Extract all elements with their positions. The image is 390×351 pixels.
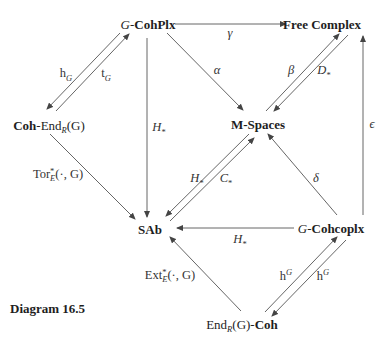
label-beta: β xyxy=(288,63,294,77)
node-g-cohplx: G-CohPlx xyxy=(121,17,176,32)
arrow-delta xyxy=(268,134,337,215)
arrow-alpha xyxy=(167,33,243,110)
label-delta: δ xyxy=(313,171,319,185)
label-alpha: α xyxy=(214,63,221,77)
label-c-star: C* xyxy=(220,171,233,185)
node-end-coh: EndR(G)-Coh xyxy=(206,317,278,332)
arrow-c-star xyxy=(170,138,254,221)
label-epsilon: ϵ xyxy=(369,117,374,131)
label-h-star-diag: H* xyxy=(190,171,203,185)
label-tor: Tor*E(·, G) xyxy=(33,167,83,182)
label-h-lower-g: hG xyxy=(60,66,72,80)
arrow-h-star-diag xyxy=(166,134,249,216)
label-ext: Ext*E(·, G) xyxy=(145,268,195,283)
label-h-star-vertical: H* xyxy=(152,120,165,134)
label-h-upper-g-left: hG xyxy=(280,269,292,283)
label-h-star-horizontal: H* xyxy=(233,232,246,246)
node-free-complex: Free Complex xyxy=(283,17,361,32)
node-sab: SAb xyxy=(138,222,162,237)
label-d-star: D* xyxy=(317,63,330,77)
label-t-lower-g: tG xyxy=(101,66,111,80)
arrow-d-star xyxy=(274,35,348,111)
diagram-caption: Diagram 16.5 xyxy=(10,301,85,317)
label-h-upper-g-right: hG xyxy=(317,269,329,283)
node-coh-end: Coh-EndR(G) xyxy=(13,118,85,133)
label-gamma: γ xyxy=(228,26,233,40)
node-m-spaces: M-Spaces xyxy=(231,117,285,132)
node-g-cohcoplx: G-Cohcoplx xyxy=(298,221,364,236)
